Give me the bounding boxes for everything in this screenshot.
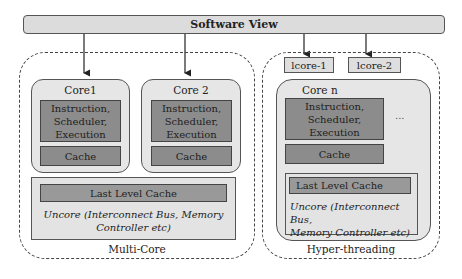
- multi-core-uncore-line2: Controller etc): [32, 221, 235, 234]
- core-n-box: Core n Instruction, Scheduler, Execution…: [276, 79, 431, 241]
- hyper-threading-uncore-box: Last Level Cache Uncore (Interconnect Bu…: [285, 173, 418, 235]
- software-view-bar: Software View: [23, 15, 445, 34]
- core-1-box: Core1 Instruction, Scheduler, Execution …: [31, 79, 130, 173]
- hyper-threading-llc: Last Level Cache: [289, 177, 411, 194]
- multi-core-label: Multi-Core: [19, 243, 255, 255]
- multi-core-uncore-box: Last Level Cache Uncore (Interconnect Bu…: [31, 177, 236, 240]
- core-2-box: Core 2 Instruction, Scheduler, Execution…: [141, 79, 241, 173]
- core-2-title: Core 2: [142, 84, 240, 96]
- hyper-threading-uncore-line2: Memory Controller etc): [290, 226, 417, 239]
- more-threads-ellipsis: ...: [395, 110, 405, 121]
- core-1-title: Core1: [32, 84, 129, 96]
- core-1-pipeline: Instruction, Scheduler, Execution: [40, 100, 121, 142]
- core-2-pipeline: Instruction, Scheduler, Execution: [151, 100, 232, 142]
- core-2-cache: Cache: [151, 146, 232, 166]
- multi-core-llc: Last Level Cache: [40, 184, 227, 202]
- multi-core-uncore-line1: Uncore (Interconnect Bus, Memory: [32, 208, 235, 221]
- core-n-pipeline: Instruction, Scheduler, Execution: [285, 98, 384, 140]
- hyper-threading-label: Hyper-threading: [262, 243, 440, 255]
- lcore-2-box: lcore-2: [348, 57, 401, 73]
- software-view-label: Software View: [190, 18, 277, 31]
- core-n-cache: Cache: [285, 144, 384, 164]
- core-n-title: Core n: [302, 84, 338, 96]
- lcore-1-box: lcore-1: [284, 57, 334, 73]
- hyper-threading-uncore-line1: Uncore (Interconnect Bus,: [290, 200, 417, 226]
- core-1-cache: Cache: [40, 146, 121, 166]
